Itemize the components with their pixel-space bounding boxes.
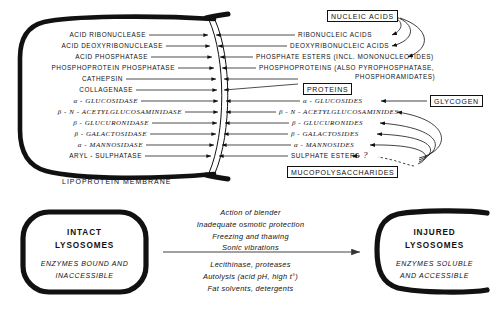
cause-above-1: Inadequate osmotic protection: [0, 220, 501, 230]
substrate-label: β - GALACTOSIDES: [291, 131, 359, 138]
substrate-label: α - GLUCOSIDES: [303, 98, 363, 105]
substrate-label: β - N - ACETYLGLUCOSAMINIDES: [279, 109, 399, 116]
substrate-label: DEOXYRIBONUCLEIC ACIDS: [290, 43, 389, 49]
enzyme-label: CATHEPSIN: [0, 76, 123, 82]
enzyme-label: ARYL - SULPHATASE: [0, 153, 142, 159]
enzyme-label: COLLAGENASE: [0, 87, 133, 93]
enzyme-label: α - GLUCOSIDASE: [0, 98, 138, 105]
substrate-label: RIBONUCLEIC ACIDS: [298, 32, 372, 38]
substrate-label: PHOSPHATE ESTERS (INCL. MONONUCLEOTIDES): [256, 54, 434, 60]
substrate-label: SULPHATE ESTERS: [291, 153, 360, 159]
nucleic-acids-connectors: [392, 17, 424, 57]
substrate-label: PHOSPHORAMIDATES): [355, 74, 435, 80]
cause-above-0: Action of blender: [0, 208, 501, 218]
enzyme-label: α - MANNOSIDASE: [0, 142, 143, 149]
lipoprotein-membrane: [209, 20, 228, 173]
enzyme-label: β - GALACTOSIDASE: [0, 131, 147, 138]
substrate-label: β - GLUCURONIDES: [292, 120, 363, 127]
enzyme-label: ACID PHOSPHATASE: [0, 54, 148, 60]
class-box-glycogen: GLYCOGEN: [430, 95, 483, 107]
cause-below-2: Fat solvents, detergents: [0, 284, 501, 294]
enzyme-label: β - N - ACETYLGLUCOSAMINIDASE: [0, 109, 182, 116]
substrate-label: α - MANNOSIDES: [294, 142, 354, 149]
membrane-label: LIPOPROTEIN MEMBRANE: [62, 178, 171, 185]
cause-above-2: Freezing and thawing: [0, 232, 501, 242]
class-box-proteins: PROTEINS: [303, 83, 352, 95]
substrate-label: PHOSPHOPROTEINS (ALSO PYROPHOSPHATASE,: [259, 65, 434, 71]
diagram-canvas: ACID RIBONUCLEASE ACID DEOXYRIBONUCLEASE…: [0, 0, 501, 309]
question-mark-annotation: ?: [363, 150, 368, 160]
class-box-nucleic-acids: NUCLEIC ACIDS: [327, 10, 398, 22]
cause-below-1: Autolysis (acid pH, high t°): [0, 272, 501, 282]
cause-below-0: Lecithinase, proteases: [0, 260, 501, 270]
enzyme-label: β - GLUCURONIDASE: [0, 120, 149, 127]
enzyme-label: ACID RIBONUCLEASE: [0, 32, 146, 38]
cause-above-3: Sonic vibrations: [0, 243, 501, 253]
enzyme-label: ACID DEOXYRIBONUCLEASE: [0, 43, 163, 49]
enzyme-label: PHOSPHOPROTEIN PHOSPHATASE: [0, 65, 175, 71]
class-box-mucopolysaccharides: MUCOPOLYSACCHARIDES: [287, 166, 398, 178]
